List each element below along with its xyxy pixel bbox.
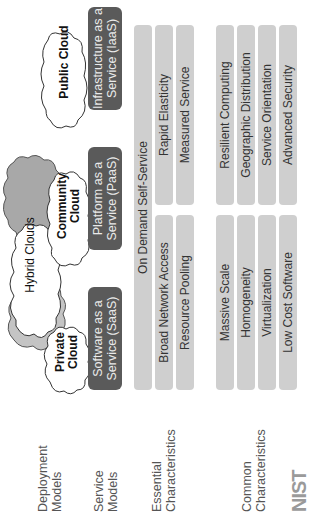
label-line: Service (IaaS) xyxy=(105,19,119,98)
essential-broad-network-bar: Broad Network Access xyxy=(155,215,173,390)
public-cloud-label: Public Cloud xyxy=(58,20,71,104)
essential-characteristics-label: Essential Characteristics xyxy=(150,429,178,512)
essential-measured-service-bar: Measured Service xyxy=(176,25,194,205)
label-line: Software as a xyxy=(91,300,105,376)
common-bar-right: Service Orientation xyxy=(258,25,276,205)
nist-cloud-model-diagram: Deployment Models Service Models Essenti… xyxy=(0,0,319,520)
label-line: Characteristics xyxy=(254,429,268,512)
label-line: Characteristics xyxy=(164,429,178,512)
essential-on-demand-bar: On Demand Self-Service xyxy=(134,25,152,390)
paas-box: Platform as a Service (PaaS) xyxy=(88,147,122,250)
essential-rapid-elasticity-bar: Rapid Elasticity xyxy=(155,25,173,205)
hybrid-clouds-label: Hybrid Clouds xyxy=(24,210,37,300)
common-bar-right: Resilient Computing xyxy=(216,25,234,205)
common-bar-left: Virtualization xyxy=(258,215,276,390)
common-bar-left: Homogeneity xyxy=(237,215,255,390)
service-models-label: Service Models xyxy=(92,470,120,512)
essential-resource-pooling-bar: Resource Pooling xyxy=(176,215,194,390)
label-line: Infrastructure as a xyxy=(91,8,105,109)
label-line: Service xyxy=(92,470,106,512)
common-bar-right: Geographic Distribution xyxy=(237,25,255,205)
common-characteristics-label: Common Characteristics xyxy=(240,429,268,512)
label-line: Service (PaaS) xyxy=(105,156,119,240)
label-line: Essential xyxy=(150,429,164,512)
private-cloud-label: Private Cloud xyxy=(54,326,80,378)
common-bar-left: Low Cost Software xyxy=(279,215,297,390)
saas-box: Software as a Service (SaaS) xyxy=(88,287,122,390)
common-bar-right: Advanced Security xyxy=(279,25,297,205)
label-line: Common xyxy=(240,429,254,512)
label-line: Cloud xyxy=(67,326,80,378)
label-line: Platform as a xyxy=(91,162,105,236)
label-line: Cloud xyxy=(69,168,82,244)
community-cloud-label: Community Cloud xyxy=(56,168,82,244)
label-line: Service (SaaS) xyxy=(105,296,119,380)
iaas-box: Infrastructure as a Service (IaaS) xyxy=(88,7,122,110)
common-bar-left: Massive Scale xyxy=(216,215,234,390)
nist-logo: NIST xyxy=(288,470,311,512)
label-line: Models xyxy=(106,470,120,512)
deployment-clouds xyxy=(0,0,90,520)
